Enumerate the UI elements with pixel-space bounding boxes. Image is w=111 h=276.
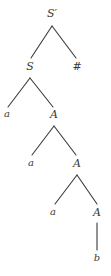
tree-edge-A2-a3 [55,175,77,204]
tree-edge-A1-A2 [54,126,76,155]
tree-node-root: S′ [47,8,57,19]
tree-edges-layer [0,0,111,276]
tree-edge-s1-a1 [8,78,30,107]
tree-node-b1: b [94,253,100,263]
tree-node-a1: a [4,109,10,119]
tree-edge-A1-a2 [32,126,54,155]
tree-node-hash: # [72,61,81,72]
tree-node-s1: S [26,61,34,72]
tree-edge-s1-A1 [30,78,53,107]
tree-edge-A2-A3 [77,175,97,204]
tree-edge-root-hash [52,26,76,58]
tree-node-a2: a [28,158,34,168]
tree-node-A2: A [73,158,81,169]
derivation-tree-diagram: S′S#aAaAaAb [0,0,111,276]
tree-node-A1: A [50,109,58,120]
tree-node-a3: a [50,207,56,217]
tree-node-A3: A [93,207,101,218]
tree-edge-root-s1 [31,26,52,58]
